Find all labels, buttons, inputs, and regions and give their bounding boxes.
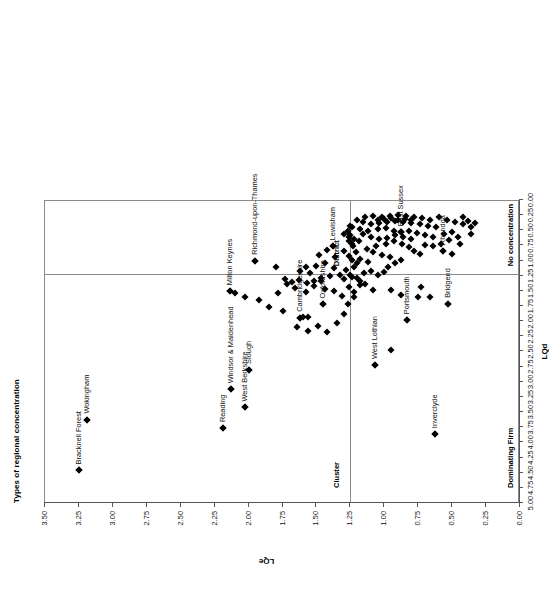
y-tick-label: 0.25	[481, 511, 490, 545]
data-point	[421, 242, 428, 249]
y-axis-title: LQe	[259, 557, 275, 566]
data-point	[364, 258, 371, 265]
y-tick-label: 2.25	[210, 511, 219, 545]
y-tick	[180, 503, 181, 507]
x-tick	[519, 366, 523, 367]
x-tick	[519, 441, 523, 442]
data-point	[446, 237, 453, 244]
data-point	[272, 263, 279, 270]
data-point	[382, 240, 389, 247]
data-point-labeled	[227, 386, 234, 393]
quadrant-label: Cluster	[333, 462, 341, 488]
x-tick	[519, 411, 523, 412]
y-tick	[383, 503, 384, 507]
data-point	[457, 241, 464, 248]
point-label: Cambridgeshire	[296, 260, 303, 312]
chart-title: Types of regional concentration	[12, 379, 21, 503]
data-point	[451, 218, 458, 225]
data-point	[430, 243, 437, 250]
data-point	[279, 307, 286, 314]
y-tick	[78, 503, 79, 507]
data-point	[305, 313, 312, 320]
y-tick	[146, 503, 147, 507]
data-point	[275, 289, 282, 296]
data-point	[294, 324, 301, 331]
data-point	[316, 251, 323, 258]
point-label: Bracknell Forest	[75, 411, 82, 464]
data-point	[306, 269, 313, 276]
data-point	[415, 294, 422, 301]
data-point	[378, 251, 385, 258]
data-point-labeled	[75, 467, 82, 474]
data-point	[388, 286, 395, 293]
point-label: West Lothian	[371, 316, 378, 359]
y-tick-label: 1.25	[345, 511, 354, 545]
data-point-labeled	[404, 317, 411, 324]
y-tick-label: 3.25	[74, 511, 83, 545]
y-tick-label: 0.75	[413, 511, 422, 545]
x-tick	[519, 244, 523, 245]
x-tick	[519, 457, 523, 458]
x-tick	[519, 487, 523, 488]
quadrant-label: District	[333, 240, 341, 266]
x-tick	[519, 351, 523, 352]
x-tick	[519, 229, 523, 230]
data-point	[331, 288, 338, 295]
plot-area: Bracknell ForestWokinghamReadingWest Ber…	[44, 200, 519, 503]
y-tick	[349, 503, 350, 507]
data-point	[454, 233, 461, 240]
y-tick-label: 3.50	[40, 511, 49, 545]
data-point	[390, 238, 397, 245]
data-point	[468, 231, 475, 238]
point-label: Rhondda	[439, 215, 446, 245]
data-point-labeled	[371, 362, 378, 369]
data-point	[374, 226, 381, 233]
data-point	[386, 254, 393, 261]
y-tick-label: 2.00	[244, 511, 253, 545]
data-point	[413, 229, 420, 236]
x-tick	[519, 305, 523, 306]
y-tick	[282, 503, 283, 507]
x-tick	[519, 381, 523, 382]
y-tick	[451, 503, 452, 507]
data-point	[324, 329, 331, 336]
y-tick	[315, 503, 316, 507]
data-point	[370, 286, 377, 293]
data-point-labeled	[431, 431, 438, 438]
y-tick	[44, 503, 45, 507]
data-point	[430, 233, 437, 240]
data-point	[241, 294, 248, 301]
data-point	[449, 250, 456, 257]
point-label: Portsmouth	[403, 276, 410, 314]
x-tick	[519, 320, 523, 321]
point-label: Slough	[245, 341, 252, 364]
data-point	[333, 320, 340, 327]
y-tick	[519, 503, 520, 507]
point-label: Milton Keynes	[226, 239, 233, 285]
y-tick-label: 2.50	[176, 511, 185, 545]
data-point	[370, 249, 377, 256]
y-tick-label: 0.00	[515, 511, 524, 545]
data-point	[421, 232, 428, 239]
y-tick	[417, 503, 418, 507]
point-label: Lewisham	[329, 207, 336, 240]
point-label: Windsor & Maidenhead	[227, 306, 234, 383]
point-label: Richmond-upon-Thames	[251, 173, 258, 254]
data-point	[417, 283, 424, 290]
data-point	[382, 225, 389, 232]
data-point-labeled	[252, 257, 259, 264]
data-point	[416, 221, 423, 228]
data-point	[375, 235, 382, 242]
data-point	[405, 227, 412, 234]
y-tick-label: 0.50	[447, 511, 456, 545]
y-tick	[485, 503, 486, 507]
y-tick-label: 2.75	[142, 511, 151, 545]
point-label: Bridgend	[444, 268, 451, 298]
data-point	[340, 311, 347, 318]
data-point-labeled	[320, 301, 327, 308]
data-point-labeled	[445, 300, 452, 307]
x-tick	[519, 472, 523, 473]
data-point	[265, 303, 272, 310]
data-point	[314, 322, 321, 329]
